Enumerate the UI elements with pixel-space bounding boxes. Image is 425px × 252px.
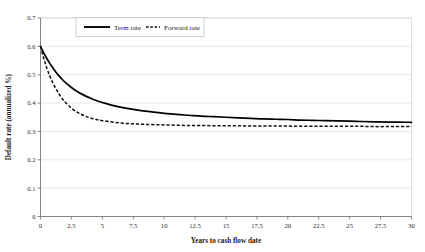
x-tick-label: 5: [101, 222, 105, 229]
y-tick-label: 0.3: [27, 128, 36, 135]
y-tick-label: 0.4: [27, 99, 36, 106]
series-line-forward-rate: [41, 46, 412, 126]
y-tick-label: 0.5: [27, 71, 36, 78]
x-tick-label: 27.5: [375, 222, 387, 229]
x-tick-label: 17.5: [251, 222, 263, 229]
y-tick-label: 0.6: [27, 43, 36, 50]
x-tick-label: 0: [39, 222, 43, 229]
x-axis-ticks: 02.557.51012.51517.52022.52527.530: [39, 217, 416, 230]
x-tick-label: 12.5: [189, 222, 201, 229]
x-tick-label: 10: [161, 222, 168, 229]
y-tick-label: 0.2: [27, 156, 35, 163]
x-tick-label: 20: [285, 222, 292, 229]
x-tick-label: 2.5: [67, 222, 76, 229]
y-axis-title: Default rate (annualized %): [5, 74, 13, 161]
legend-label-term-rate: Term rate: [114, 24, 141, 32]
x-tick-label: 25: [346, 222, 353, 229]
x-tick-label: 30: [408, 222, 415, 229]
chart-legend: Term rate Forward rate: [76, 18, 204, 37]
series-line-term-rate: [41, 46, 412, 122]
y-tick-label: 0.7: [27, 14, 36, 21]
y-axis-ticks: 00.10.20.30.40.50.60.7: [27, 14, 40, 220]
y-tick-label: 0.1: [27, 185, 35, 192]
x-tick-label: 22.5: [313, 222, 325, 229]
chart-container: 02.557.51012.51517.52022.52527.530 00.10…: [0, 0, 425, 252]
chart-plot-area: 02.557.51012.51517.52022.52527.530 00.10…: [0, 0, 425, 252]
y-tick-label: 0: [32, 213, 36, 220]
legend-label-forward-rate: Forward rate: [164, 24, 200, 32]
x-axis-title: Years to cash flow date: [191, 237, 261, 245]
x-tick-label: 7.5: [129, 222, 138, 229]
x-tick-label: 15: [223, 222, 230, 229]
